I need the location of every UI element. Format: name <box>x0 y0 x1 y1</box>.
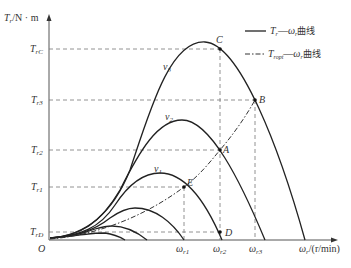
legend: Tr—ωr曲线 Tropt—ωr曲线 <box>245 25 321 60</box>
legend-dashdot-label: Tropt—ωr曲线 <box>268 48 321 60</box>
y-tick-tr2: Tr2 <box>31 144 43 157</box>
point-e <box>182 185 186 189</box>
y-tick-tr1: Tr1 <box>31 181 43 194</box>
curve-v3 <box>50 42 305 240</box>
label-b: B <box>259 94 265 105</box>
legend-solid-label: Tr—ωr曲线 <box>270 25 315 37</box>
y-tick-trc: TrC <box>30 43 43 56</box>
torque-speed-diagram: Tr/N · m ωr/(r/min) O TrC Tr3 Tr2 Tr1 Tr… <box>0 0 351 268</box>
point-c <box>218 47 222 51</box>
curve-v1 <box>50 173 222 240</box>
x-axis-arrow-icon <box>331 238 338 243</box>
point-b <box>253 98 257 102</box>
x-tick-wr2: ωr2 <box>213 243 227 256</box>
y-axis-arrow-icon <box>47 14 52 21</box>
x-tick-wr3: ωr3 <box>249 243 263 256</box>
label-e: E <box>186 177 193 188</box>
point-a <box>218 148 222 152</box>
y-axis-label: Tr/N · m <box>4 12 39 25</box>
label-a: A <box>222 144 230 155</box>
origin-label: O <box>38 243 45 254</box>
label-d: D <box>224 227 233 238</box>
label-v1: v1 <box>154 163 162 176</box>
x-tick-wr1: ωr1 <box>176 243 189 256</box>
label-c: C <box>216 34 223 45</box>
curve-vs2 <box>50 233 125 240</box>
label-v2: v2 <box>165 111 173 124</box>
curve-tropt <box>50 100 255 239</box>
y-tick-trd: TrD <box>30 226 43 239</box>
point-d <box>218 230 222 234</box>
y-tick-tr3: Tr3 <box>31 94 43 107</box>
curve-v2 <box>50 120 265 240</box>
label-v3: v3 <box>163 61 171 74</box>
x-axis-label: ωr/(r/min) <box>299 243 340 256</box>
